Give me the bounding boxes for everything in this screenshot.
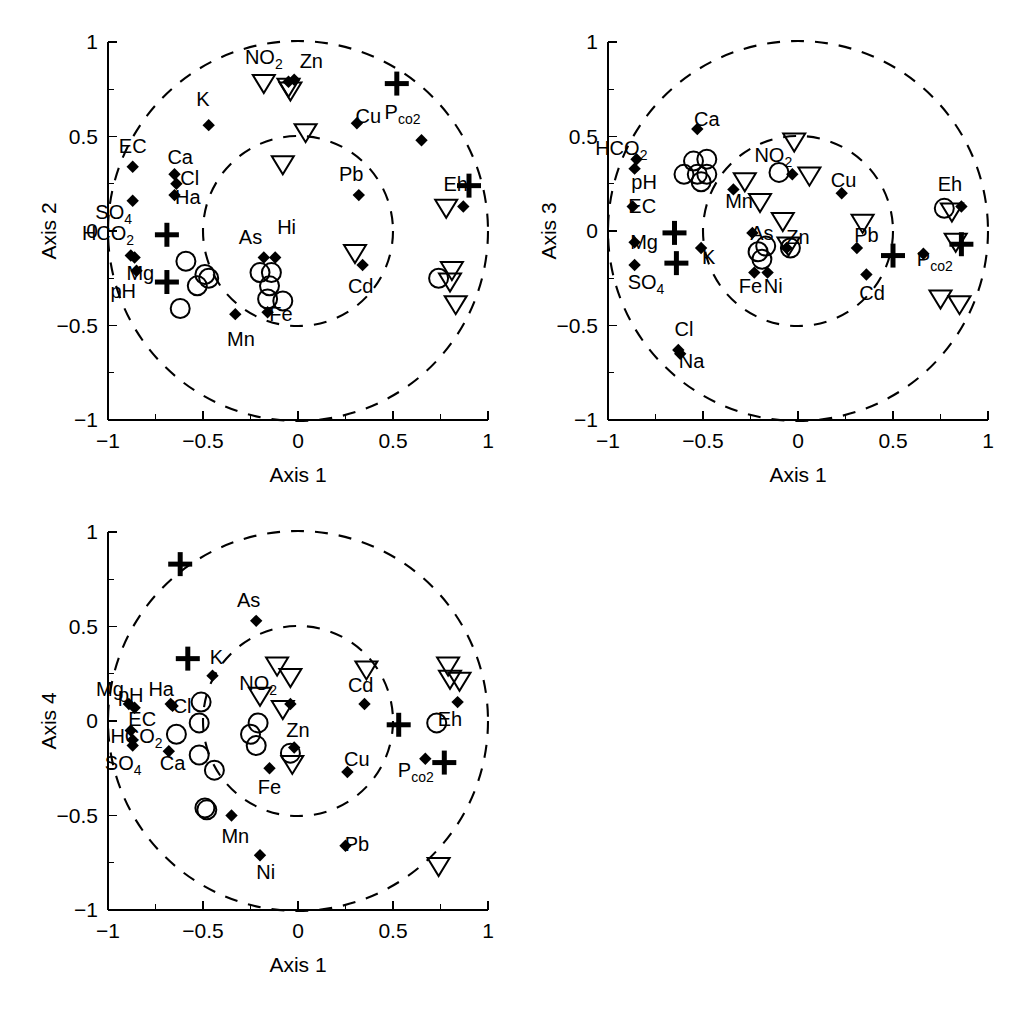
marker-plus — [155, 223, 179, 247]
x-tick-label: 0 — [292, 919, 304, 942]
point-label-cd: Cd — [348, 674, 374, 696]
x-tick-label: 1 — [982, 429, 994, 452]
marker-plus — [664, 251, 688, 275]
x-tick-label: 0.5 — [378, 429, 407, 452]
x-tick-label: 0.5 — [378, 919, 407, 942]
scatter-panel-panel-axis2: −1−0.500.5110.50−0.5−1Axis 1Axis 2NO2ZnK… — [30, 16, 512, 496]
point-label-na: Na — [679, 350, 705, 372]
figure-root: −1−0.500.5110.50−0.5−1Axis 1Axis 2NO2ZnK… — [0, 0, 1030, 1024]
marker-open-circle — [167, 725, 186, 744]
x-axis-title: Axis 1 — [269, 463, 326, 486]
x-axis-title: Axis 1 — [769, 463, 826, 486]
marker-diamond-pco2 — [419, 753, 431, 765]
marker-open-circle — [247, 736, 266, 755]
y-tick-label: 1 — [86, 30, 98, 53]
marker-down-triangle — [449, 673, 471, 691]
marker-diamond-pb — [353, 189, 365, 201]
y-tick-label: −0.5 — [57, 314, 98, 337]
marker-open-circle — [251, 263, 270, 282]
marker-down-triangle — [281, 756, 303, 774]
open-circle-markers — [171, 252, 448, 318]
y-tick-label: −0.5 — [57, 804, 98, 827]
marker-down-triangle — [266, 658, 288, 676]
point-label-pb: Pb — [854, 224, 878, 246]
marker-diamond-so4 — [127, 195, 139, 207]
point-label-k: K — [702, 246, 716, 268]
point-label-no2: NO2 — [754, 144, 792, 170]
marker-open-circle — [192, 693, 211, 712]
inner-circle — [203, 136, 393, 326]
marker-diamond-cd — [356, 259, 368, 271]
point-label-as: As — [237, 589, 260, 611]
marker-down-triangle — [272, 156, 294, 174]
point-label-cu: Cu — [356, 105, 382, 127]
marker-diamond-ec — [127, 161, 139, 173]
marker-down-triangle — [435, 200, 457, 218]
marker-diamond-so4 — [628, 259, 640, 271]
marker-plus — [663, 221, 687, 245]
marker-diamond-k — [206, 669, 218, 681]
point-label-pb: Pb — [339, 163, 363, 185]
marker-open-circle — [190, 713, 209, 732]
x-tick-label: −0.5 — [182, 429, 223, 452]
point-label-so4: SO4 — [105, 752, 142, 778]
point-label-pb: Pb — [345, 833, 369, 855]
point-label-mn: Mn — [725, 190, 753, 212]
marker-down-triangle — [445, 296, 467, 314]
point-label-cu: Cu — [344, 748, 370, 770]
marker-diamond-hi — [269, 251, 281, 263]
point-label-ca: Ca — [160, 752, 186, 774]
marker-plus — [155, 270, 179, 294]
x-tick-label: −1 — [96, 919, 120, 942]
marker-open-circle — [260, 276, 279, 295]
point-label-eh: Eh — [938, 173, 962, 195]
marker-diamond-k — [203, 119, 215, 131]
x-tick-label: 0.5 — [878, 429, 907, 452]
marker-plus — [881, 244, 905, 268]
y-tick-label: −0.5 — [557, 314, 598, 337]
y-axis-title: Axis 4 — [37, 692, 60, 750]
variable-markers: AsKMgpHHaClECHCO2SO4CaNO2ZnCdEhCuPco2FeM… — [96, 589, 464, 883]
y-tick-label: 0 — [586, 219, 598, 242]
point-label-ni: Ni — [764, 275, 783, 297]
y-axis-title: Axis 2 — [37, 202, 60, 259]
marker-down-triangle — [253, 75, 275, 93]
point-label-ph: pH — [110, 280, 136, 302]
y-tick-label: 0.5 — [69, 615, 98, 638]
x-tick-label: −1 — [596, 429, 620, 452]
y-tick-label: 0 — [86, 709, 98, 732]
point-label-cd: Cd — [859, 282, 885, 304]
marker-diamond-ca — [168, 168, 180, 180]
marker-open-circle — [190, 746, 209, 765]
variable-markers: NO2ZnKECCaClHaSO4HCO2MgpHCuPco2PbEhAsHiC… — [82, 46, 470, 350]
point-label-no2: NO2 — [239, 672, 277, 698]
point-label-mg: Mg — [630, 231, 658, 253]
point-label-hco2: HCO2 — [595, 137, 647, 163]
point-label-zn: Zn — [786, 226, 809, 248]
point-label-cd: Cd — [348, 275, 374, 297]
marker-down-triangle — [295, 124, 317, 142]
marker-diamond-ni — [254, 849, 266, 861]
y-tick-label: 0.5 — [69, 125, 98, 148]
point-label-ph: pH — [118, 684, 144, 706]
point-label-fe: Fe — [739, 275, 762, 297]
point-label-ca: Ca — [167, 146, 193, 168]
x-tick-label: 1 — [482, 429, 494, 452]
point-label-ha: Ha — [148, 678, 174, 700]
marker-diamond-no2 — [284, 698, 296, 710]
y-tick-label: 0.5 — [569, 125, 598, 148]
marker-diamond-mn — [225, 809, 237, 821]
marker-diamond-pco2 — [415, 134, 427, 146]
marker-plus — [176, 647, 200, 671]
point-label-ec: EC — [119, 135, 147, 157]
y-tick-label: −1 — [74, 898, 98, 921]
marker-down-triangle — [798, 168, 820, 186]
point-label-cu: Cu — [831, 169, 857, 191]
marker-down-triangle — [949, 296, 971, 314]
marker-open-circle — [752, 250, 771, 269]
marker-down-triangle — [279, 669, 301, 687]
y-tick-label: 1 — [586, 30, 598, 53]
marker-down-triangle — [428, 858, 450, 876]
point-label-fe: Fe — [269, 303, 292, 325]
y-tick-label: 1 — [86, 520, 98, 543]
